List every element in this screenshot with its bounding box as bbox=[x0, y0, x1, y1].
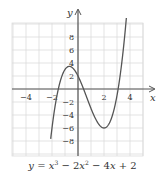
chart: −4−2248642−2−4−6−8 x y bbox=[0, 0, 165, 180]
axes bbox=[12, 9, 155, 156]
eq-term3: − 4 bbox=[89, 160, 110, 171]
x-axis-label: x bbox=[150, 92, 156, 103]
x-tick-label: −4 bbox=[20, 93, 32, 102]
x-tick-label: 2 bbox=[101, 93, 106, 102]
y-axis-label: y bbox=[66, 7, 73, 18]
y-tick-label: −4 bbox=[62, 111, 74, 120]
equation-label: y = x3 − 2x2 − 4x + 2 bbox=[0, 159, 165, 171]
y-tick-label: 8 bbox=[69, 33, 74, 42]
y-tick-label: 6 bbox=[69, 46, 74, 55]
y-tick-label: −2 bbox=[62, 98, 74, 107]
y-tick-label: 2 bbox=[69, 72, 74, 81]
x-tick-label: 4 bbox=[127, 93, 132, 102]
eq-term4: + 2 bbox=[116, 160, 137, 171]
eq-term2: − 2 bbox=[58, 160, 79, 171]
curve bbox=[51, 18, 127, 139]
y-tick-label: −6 bbox=[62, 124, 74, 133]
y-tick-label: −8 bbox=[62, 137, 74, 146]
eq-equals: = bbox=[34, 160, 49, 171]
